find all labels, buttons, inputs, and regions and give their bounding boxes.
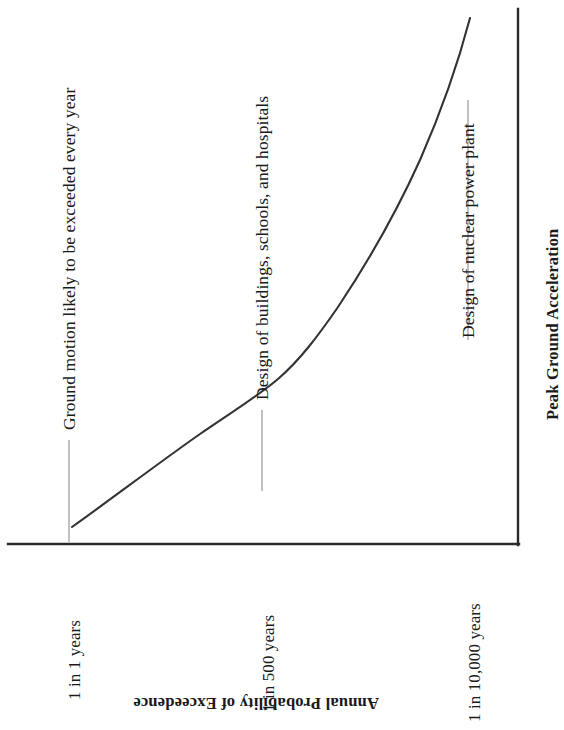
- tick-label-1-in-10000-years: 1 in 10,000 years: [466, 603, 483, 722]
- annotation-nuclear-power-plant: Design of nuclear power plant: [460, 123, 478, 338]
- y-axis-title: Peak Ground Acceleration: [545, 229, 562, 420]
- figure-canvas: Ground motion likely to be exceeded ever…: [0, 0, 564, 730]
- tick-label-1-in-1-years: 1 in 1 years: [66, 620, 83, 700]
- annotation-buildings-schools-hospitals: Design of buildings, schools, and hospit…: [254, 96, 272, 400]
- annotation-ground-motion: Ground motion likely to be exceeded ever…: [61, 88, 79, 430]
- x-axis-title: Annual Probability of Exceedence: [110, 694, 402, 711]
